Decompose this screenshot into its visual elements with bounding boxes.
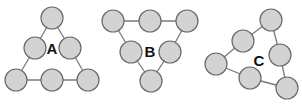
node-circle [77, 69, 99, 91]
node-circle [139, 10, 161, 32]
figure-a: A [5, 7, 99, 91]
figure-label: B [145, 43, 156, 60]
node-circle [41, 69, 63, 91]
figure-b: B [102, 10, 198, 92]
node-circle [59, 37, 81, 59]
figure-label: C [254, 52, 265, 69]
ring-diagrams: A B C [0, 0, 302, 104]
node-circle [176, 10, 198, 32]
node-circle [205, 53, 227, 75]
node-circle [102, 10, 124, 32]
node-circle [260, 9, 282, 31]
node-circle [24, 37, 46, 59]
node-circle [140, 70, 162, 92]
node-circle [5, 69, 27, 91]
figure-label: A [47, 40, 58, 57]
node-circle [41, 7, 63, 29]
node-circle [269, 44, 291, 66]
node-circle [276, 77, 298, 99]
figure-c: C [205, 9, 298, 99]
node-circle [159, 41, 181, 63]
node-circle [239, 67, 261, 89]
node-circle [232, 30, 254, 52]
node-circle [120, 41, 142, 63]
